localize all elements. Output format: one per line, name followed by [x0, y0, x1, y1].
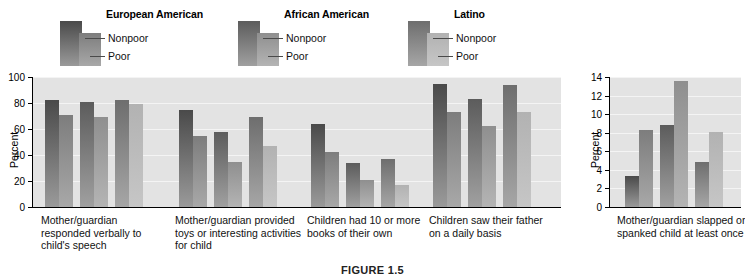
legend-label-nonpoor: Nonpoor: [456, 32, 496, 44]
legend-leader-line-nonpoor: [85, 38, 105, 39]
x-axis-category-label: Mother/guardian provided toys or interes…: [175, 214, 303, 252]
bar: [695, 162, 709, 207]
y-tick-label: 0: [0, 207, 25, 208]
bar: [381, 159, 395, 207]
legend-label-poor: Poor: [108, 50, 130, 62]
legend-group-title: European American: [106, 8, 203, 20]
legend-swatch-pair: [60, 21, 104, 66]
bar: [360, 180, 374, 207]
x-axis-category-label: Mother/guardian slapped or spanked child…: [617, 214, 745, 239]
legend-label-poor: Poor: [456, 50, 478, 62]
y-tick-label: 100: [0, 77, 25, 78]
legend-group-title: Latino: [454, 8, 485, 20]
y-tick-label: 4: [583, 170, 602, 171]
figure-caption: FIGURE 1.5: [0, 264, 745, 275]
y-tick-label: 20: [0, 181, 25, 182]
y-tick-label: 40: [0, 155, 25, 156]
figure-root: European American Nonpoor Poor African A…: [0, 0, 745, 275]
gridline: [610, 77, 741, 78]
plot-area: [610, 77, 741, 207]
bar: [228, 162, 242, 208]
x-axis-category-label: Children had 10 or more books of their o…: [307, 214, 435, 239]
legend-swatch-pair: [408, 21, 452, 66]
y-axis-line: [609, 77, 610, 208]
bar: [447, 112, 461, 207]
bar: [45, 100, 59, 207]
legend-leader-line-poor: [438, 56, 453, 57]
bar: [80, 102, 94, 207]
legend-label-nonpoor: Nonpoor: [108, 32, 148, 44]
chart-panel-percent-main: Percent 020406080100: [0, 66, 565, 216]
bar: [94, 117, 108, 207]
bar: [325, 152, 339, 207]
bar: [503, 85, 517, 207]
y-tick-label: 2: [583, 188, 602, 189]
legend-leader-line-nonpoor: [433, 38, 453, 39]
bar: [129, 104, 143, 207]
legend-label-poor: Poor: [286, 50, 308, 62]
x-axis-line: [32, 207, 561, 208]
legend-leader-line-nonpoor: [263, 38, 283, 39]
bar: [639, 130, 653, 207]
y-tick-label: 80: [0, 103, 25, 104]
legend-leader-line-poor: [268, 56, 283, 57]
plot-area: [33, 77, 561, 207]
bar: [625, 176, 639, 207]
chart-legend: European American Nonpoor Poor African A…: [0, 0, 745, 66]
y-tick-label: 0: [583, 207, 602, 208]
bar: [517, 112, 531, 207]
bar: [709, 132, 723, 207]
gridline: [33, 77, 561, 78]
x-axis-category-label: Mother/guardian responded verbally to ch…: [41, 214, 169, 252]
x-axis-category-label: Children saw their father on a daily bas…: [429, 214, 557, 239]
bar: [193, 136, 207, 208]
bar: [660, 125, 674, 207]
y-tick-label: 10: [583, 114, 602, 115]
y-tick-label: 14: [583, 77, 602, 78]
bar: [395, 185, 409, 207]
y-axis-line: [32, 77, 33, 208]
bar: [59, 115, 73, 207]
chart-panel-percent-spanked: Percent 02468101214: [583, 66, 745, 216]
legend-leader-line-poor: [90, 56, 105, 57]
y-tick-label: 8: [583, 133, 602, 134]
y-tick-label: 6: [583, 151, 602, 152]
legend-group-title: African American: [284, 8, 369, 20]
bar: [115, 100, 129, 207]
bar: [468, 99, 482, 207]
y-tick-label: 60: [0, 129, 25, 130]
bar: [433, 84, 447, 208]
bar: [179, 110, 193, 208]
bar: [346, 163, 360, 207]
legend-swatch-pair: [238, 21, 282, 66]
bar: [214, 132, 228, 207]
bar: [249, 117, 263, 207]
legend-label-nonpoor: Nonpoor: [286, 32, 326, 44]
bar: [263, 146, 277, 207]
x-axis-line: [609, 207, 741, 208]
bar: [311, 124, 325, 207]
bar: [482, 126, 496, 207]
y-tick-label: 12: [583, 96, 602, 97]
bar: [674, 81, 688, 207]
